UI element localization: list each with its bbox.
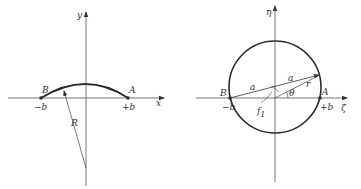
right-tick-minus-b: −b (222, 102, 236, 112)
left-figure: y x B A −b +b R (8, 10, 164, 186)
right-tick-plus-b: +b (320, 102, 334, 112)
right-eta-axis-label: η (266, 7, 272, 17)
right-zeta-axis-label: ζ (341, 103, 347, 113)
left-x-axis-label: x (156, 98, 161, 108)
left-point-A-label: A (128, 85, 136, 95)
right-angle-theta-label: θ (289, 88, 295, 98)
left-radius-label: R (70, 118, 78, 128)
left-y-axis-label: y (76, 10, 83, 20)
right-radius-label: r (306, 79, 311, 89)
right-point-B-label: B (219, 88, 227, 98)
right-focus-leader (261, 92, 272, 103)
right-segment-a-left: a (250, 82, 255, 92)
right-focus-label: f1 (256, 106, 265, 119)
left-point-B-label: B (41, 85, 49, 95)
right-segment-a-right: a (288, 73, 293, 83)
left-tick-plus-b: +b (122, 102, 136, 112)
left-radius-line (64, 91, 86, 168)
right-r-line (275, 76, 318, 98)
diagram-canvas: y x B A −b +b R η ζ B A −b +b a a r θ (0, 0, 361, 189)
left-arc-curve (41, 84, 128, 98)
right-theta-arc (287, 92, 288, 98)
left-tick-minus-b: −b (34, 102, 48, 112)
right-figure: η ζ B A −b +b a a r θ f1 (196, 6, 347, 182)
left-point-B-marker (40, 97, 43, 100)
left-point-A-marker (127, 97, 130, 100)
right-point-A-label: A (321, 87, 329, 97)
